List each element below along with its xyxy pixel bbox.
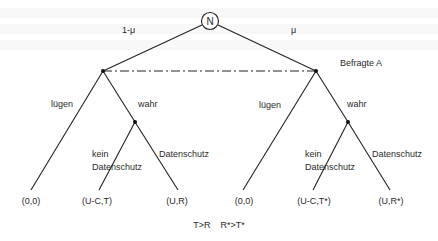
info-set-label-text: Befragte A [340, 58, 382, 68]
payoff-3: (U,R) [166, 196, 188, 206]
payoff-2: (U-C,T) [82, 196, 112, 206]
decision-node-right-inner [346, 120, 350, 124]
action-left-lie: lügen [51, 99, 73, 109]
prob-left-label: 1-μ [122, 25, 135, 35]
action-left-truth: wahr [137, 99, 158, 109]
action-right-truth: wahr [346, 99, 367, 109]
payoff-4: (0,0) [235, 196, 254, 206]
payoff-6: (U,R*) [379, 196, 404, 206]
action-right-lie: lügen [259, 100, 281, 110]
prob-right-label: μ [291, 25, 296, 35]
action-left-no-privacy-2: Datenschutz [92, 162, 143, 172]
payoff-1: (0,0) [22, 196, 41, 206]
action-left-no-privacy-1: kein [92, 149, 109, 159]
edge-right-lie [243, 71, 316, 190]
info-set-label: Befragte A [340, 58, 382, 68]
action-left-privacy: Datenschutz [159, 149, 210, 159]
edge-right-truth [316, 71, 348, 122]
payoff-5: (U-C,T*) [297, 196, 331, 206]
action-right-no-privacy-2: Datenschutz [305, 162, 356, 172]
decision-node-left [101, 69, 105, 73]
decision-node-right [314, 69, 318, 73]
condition-label: T>R R*>T* [193, 220, 245, 230]
action-right-no-privacy-1: kein [305, 149, 322, 159]
edge-nature-left [103, 25, 202, 71]
edge-nature-right [218, 25, 316, 71]
edge-left-truth [103, 71, 135, 122]
decision-node-left-inner [133, 120, 137, 124]
nature-node-label: N [206, 16, 213, 27]
action-right-privacy: Datenschutz [372, 149, 423, 159]
edge-left-lie [31, 71, 103, 190]
game-tree-diagram: N 1-μ μ Befragte A lügen wahr kein Daten… [0, 0, 438, 241]
